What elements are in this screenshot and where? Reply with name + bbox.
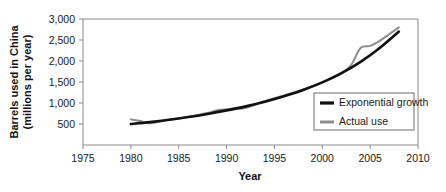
x-tick-label: 2000 xyxy=(311,152,335,164)
chart-canvas: 5001,0001,5002,0002,5003,000 19751980198… xyxy=(0,0,446,192)
y-tick-label: 3,000 xyxy=(49,13,75,25)
y-axis-tick-labels: 5001,0001,5002,0002,5003,000 xyxy=(49,13,75,130)
x-tick-label: 1975 xyxy=(71,152,95,164)
y-axis-title: Barrels used in China (millions per year… xyxy=(8,25,33,139)
y-axis-tick-marks xyxy=(79,19,83,124)
legend-label-exponential: Exponential growth xyxy=(339,96,428,108)
y-tick-label: 500 xyxy=(57,118,75,130)
x-tick-label: 1980 xyxy=(119,152,143,164)
x-axis-tick-marks xyxy=(83,145,418,149)
x-tick-label: 2005 xyxy=(358,152,382,164)
x-tick-label: 2010 xyxy=(406,152,430,164)
x-axis-tick-labels: 19751980198519901995200020052010 xyxy=(71,152,430,164)
legend-label-actual-use: Actual use xyxy=(339,115,388,127)
y-axis-title-line1: Barrels used in China xyxy=(8,25,20,139)
x-tick-label: 1990 xyxy=(215,152,239,164)
x-axis-title: Year xyxy=(238,170,262,182)
y-axis-title-line2: (millions per year) xyxy=(21,34,33,129)
x-tick-label: 1995 xyxy=(263,152,287,164)
chart-figure: 5001,0001,5002,0002,5003,000 19751980198… xyxy=(0,0,446,192)
x-tick-label: 1985 xyxy=(167,152,191,164)
y-tick-label: 1,000 xyxy=(49,97,75,109)
y-tick-label: 1,500 xyxy=(49,76,75,88)
y-tick-label: 2,500 xyxy=(49,34,75,46)
chart-legend: Exponential growth Actual use xyxy=(314,93,428,130)
y-tick-label: 2,000 xyxy=(49,55,75,67)
